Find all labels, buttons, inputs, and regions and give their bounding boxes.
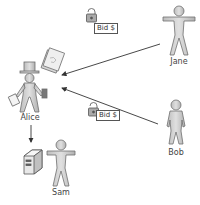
actor-alice-figure [8,62,47,112]
padlock-icon [87,9,97,22]
document-icon [41,48,65,73]
arrow-jane-to-alice [62,44,160,75]
actor-label-alice: Alice [10,113,50,123]
bid-label-bob: Bid $ [96,110,120,121]
actor-jane-figure [163,6,195,55]
actor-label-sam: Sam [41,188,81,198]
actor-sam-figure [47,140,75,186]
actor-label-bob: Bob [156,148,196,158]
actor-label-jane: Jane [159,57,199,67]
actor-bob-figure [167,100,185,144]
diagram-canvas: Bid $ Bid $ Alice Jane Bob Sam [0,0,200,205]
server-icon [24,150,42,174]
bid-label-jane: Bid $ [94,23,118,34]
